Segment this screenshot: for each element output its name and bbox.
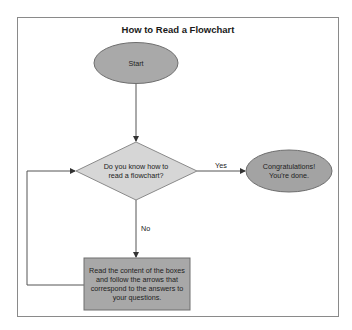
done-node-label: Congratulations! You're done.	[256, 161, 322, 181]
start-node-label: Start	[100, 56, 172, 70]
edge-loop-back	[27, 171, 84, 285]
edge-label-no: No	[141, 224, 150, 233]
decision-node-label: Do you know how to read a flowchart?	[100, 161, 172, 181]
process-node-label: Read the content of the boxes and follow…	[88, 262, 186, 306]
edge-label-yes: Yes	[215, 161, 227, 170]
